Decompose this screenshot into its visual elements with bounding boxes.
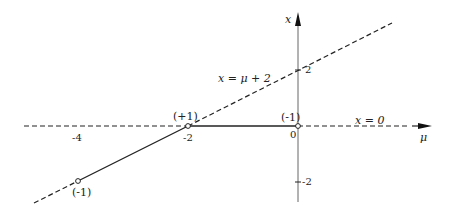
tick-label-x-minus2: -2: [302, 177, 312, 187]
curve-label-horizontal: x = 0: [355, 115, 384, 126]
point-label-transcritical: (+1): [173, 111, 198, 122]
point-label-origin: (-1): [281, 112, 300, 123]
branch-diagonal-stable: [78, 126, 188, 181]
point-origin: [296, 124, 301, 129]
point-lower: [76, 179, 81, 184]
point-label-lower: (-1): [72, 187, 91, 198]
diagram-canvas: [0, 0, 455, 219]
tick-label-origin: 0: [290, 130, 296, 140]
horizontal-axis-label: μ: [420, 132, 427, 143]
x-axis-arrow-icon: [295, 12, 301, 26]
vertical-axis-label: x: [285, 14, 291, 25]
tick-label-x-plus2: 2: [305, 65, 311, 75]
point-transcritical: [186, 124, 191, 129]
bifurcation-diagram: x μ -4 -2 0 2 -2 x = μ + 2 x = 0 (+1) (-…: [0, 0, 455, 219]
tick-label-mu-minus4: -4: [72, 133, 82, 143]
tick-label-mu-minus2: -2: [183, 133, 193, 143]
mu-axis-arrow-icon: [418, 123, 432, 129]
curve-label-diagonal: x = μ + 2: [218, 73, 271, 84]
